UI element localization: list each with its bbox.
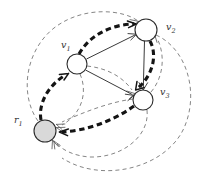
edge-v1-v3-solid [86, 70, 133, 95]
edge-v2-v3-thick [138, 41, 154, 88]
node-layer [34, 19, 157, 142]
node-r1[interactable] [34, 120, 56, 142]
label-r1: r1 [14, 114, 23, 128]
label-v3-sub: 3 [165, 92, 169, 100]
edge-v3-v2-thin [151, 38, 162, 92]
label-v2-sub: 2 [170, 27, 175, 35]
arrowhead-v1-v2-thick [127, 21, 136, 28]
node-v3[interactable] [133, 90, 153, 110]
edge-v3-r1-thin-outer [55, 110, 147, 157]
edge-v1-r1-thin [62, 74, 83, 125]
graph-canvas: v1 v2 v3 r1 [0, 0, 207, 191]
graph-figure: v1 v2 v3 r1 [0, 0, 207, 191]
edge-v1-v3-thin [87, 66, 132, 90]
edge-v2-v3-solid [143, 41, 144, 88]
label-r1-sub: 1 [19, 120, 23, 128]
edge-r1-v1-thick [40, 76, 64, 120]
label-v3: v3 [160, 86, 170, 100]
label-v1: v1 [61, 39, 71, 53]
node-v2[interactable] [135, 19, 157, 41]
node-v1[interactable] [67, 54, 87, 74]
thick-dashed-edge-layer [40, 21, 153, 136]
edge-v3-r1-thick [62, 106, 134, 132]
label-v2: v2 [166, 21, 176, 35]
label-v1-sub: 1 [66, 45, 70, 53]
edge-v3-r1-thin [62, 99, 133, 122]
